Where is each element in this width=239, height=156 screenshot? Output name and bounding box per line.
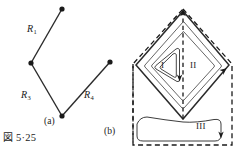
- part-b-sublabel: (b): [104, 127, 115, 137]
- region-three-contour: [137, 117, 221, 141]
- region-label-one: I: [161, 61, 164, 70]
- part-b-diagram: [133, 9, 232, 145]
- node-dot-left: [28, 60, 33, 65]
- node-dot-bottom: [59, 113, 64, 118]
- region-label-two: II: [190, 61, 197, 70]
- region-label-three: III: [196, 122, 206, 131]
- figure-container: R1 R3 R4 (a) (b) I II III 図 5·25: [0, 0, 239, 156]
- segment-r1: [31, 9, 62, 63]
- figure-caption-number: 5·25: [16, 132, 36, 143]
- segment-r3: [31, 63, 62, 116]
- node-dot-top: [59, 6, 64, 11]
- resistor-label-r3: R3: [21, 90, 30, 100]
- figure-caption: 図 5·25: [3, 133, 36, 144]
- part-a-sublabel: (a): [44, 117, 55, 127]
- resistor-label-r4: R4: [84, 90, 93, 100]
- resistor-label-r1: R1: [27, 24, 36, 34]
- figure-caption-kanji: 図: [3, 132, 13, 143]
- node-dot-right: [107, 59, 112, 64]
- part-a-network: [28, 6, 112, 118]
